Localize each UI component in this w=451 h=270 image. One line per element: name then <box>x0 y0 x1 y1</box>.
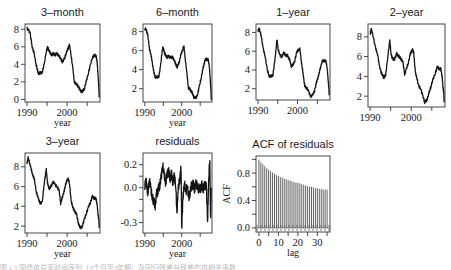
x-axis-label: year <box>54 248 72 259</box>
y-axis-label: ACF <box>221 184 232 204</box>
panel-title: 3–year <box>46 135 80 147</box>
y-tick-label: 0.8 <box>237 168 250 179</box>
x-tick-label: 10 <box>273 237 284 248</box>
panel-2-year: 2–year246819902000 <box>357 6 445 123</box>
y-tick-label: 6 <box>14 41 19 52</box>
panel-title: 2–year <box>390 6 424 18</box>
y-tick-label: 8 <box>357 31 362 42</box>
x-axis-label: lag <box>287 247 299 258</box>
x-tick-label: 1990 <box>134 107 155 118</box>
series-line <box>145 28 212 100</box>
x-tick-label: 1990 <box>360 112 381 123</box>
y-tick-label: 4 <box>357 71 363 82</box>
x-axis-label: year <box>169 248 187 259</box>
plot-frame <box>143 24 212 102</box>
y-tick-label: 4 <box>245 64 251 75</box>
figure-caption: 图 1.5 国债收益率时间序列（3个月至3年期）及回归残差与残差的自相关函数 <box>0 262 451 270</box>
panel-3-month: 3–month0246819902000year <box>14 6 100 128</box>
panel-title: 1–year <box>276 6 310 18</box>
panel-6-month: 6–month246819902000year <box>132 6 212 128</box>
panel-acf: ACF of residuals0.00.40.80102030lagACF <box>221 138 334 258</box>
panel-title: 6–month <box>156 6 199 18</box>
plot-frame <box>256 24 330 100</box>
series-line <box>258 28 329 97</box>
y-tick-label: -0.3 <box>120 217 137 228</box>
y-tick-label: 0.2 <box>124 159 137 170</box>
x-tick-label: 1990 <box>247 105 268 116</box>
x-tick-label: 2000 <box>287 105 308 116</box>
series-line <box>27 28 99 98</box>
y-tick-label: 2 <box>14 76 19 87</box>
series-line <box>27 157 99 229</box>
series-line <box>370 28 444 103</box>
figure-grid: 3–month0246819902000year6–month246819902… <box>0 0 451 270</box>
y-tick-label: 2 <box>14 221 19 232</box>
series-line <box>145 161 212 229</box>
x-tick-label: 1990 <box>17 238 38 249</box>
panel-title: 3–month <box>41 6 84 18</box>
y-tick-label: 6 <box>132 45 137 56</box>
y-tick-label: 8 <box>14 161 19 172</box>
y-tick-label: 0.0 <box>124 182 137 193</box>
panel-1-year: 1–year246819902000 <box>245 6 330 116</box>
x-tick-label: 0 <box>256 237 261 248</box>
y-tick-label: 0.4 <box>237 195 251 206</box>
y-tick-label: 6 <box>245 46 250 57</box>
panel-residuals: residuals-0.30.00.219902000year <box>120 135 212 259</box>
panel-title: ACF of residuals <box>252 138 334 150</box>
y-tick-label: 6 <box>357 51 362 62</box>
y-tick-label: 4 <box>14 59 20 70</box>
y-tick-label: 2 <box>357 91 362 102</box>
y-tick-label: 2 <box>132 83 137 94</box>
y-tick-label: 6 <box>14 181 19 192</box>
y-tick-label: 4 <box>132 64 138 75</box>
y-tick-label: 8 <box>132 26 137 37</box>
y-tick-label: 4 <box>14 201 20 212</box>
x-tick-label: 30 <box>312 237 323 248</box>
x-tick-label: 1990 <box>134 238 155 249</box>
y-tick-label: 8 <box>14 24 19 35</box>
x-axis-label: year <box>169 117 187 128</box>
panel-3-year: 3–year246819902000year <box>14 135 100 259</box>
y-tick-label: 0.0 <box>237 222 250 233</box>
panel-title: residuals <box>155 135 200 147</box>
x-tick-label: 1990 <box>17 107 38 118</box>
x-axis-label: year <box>54 117 72 128</box>
y-tick-label: 8 <box>245 27 250 38</box>
y-tick-label: 2 <box>245 83 250 94</box>
y-tick-label: 0 <box>14 94 19 105</box>
x-tick-label: 2000 <box>401 112 422 123</box>
